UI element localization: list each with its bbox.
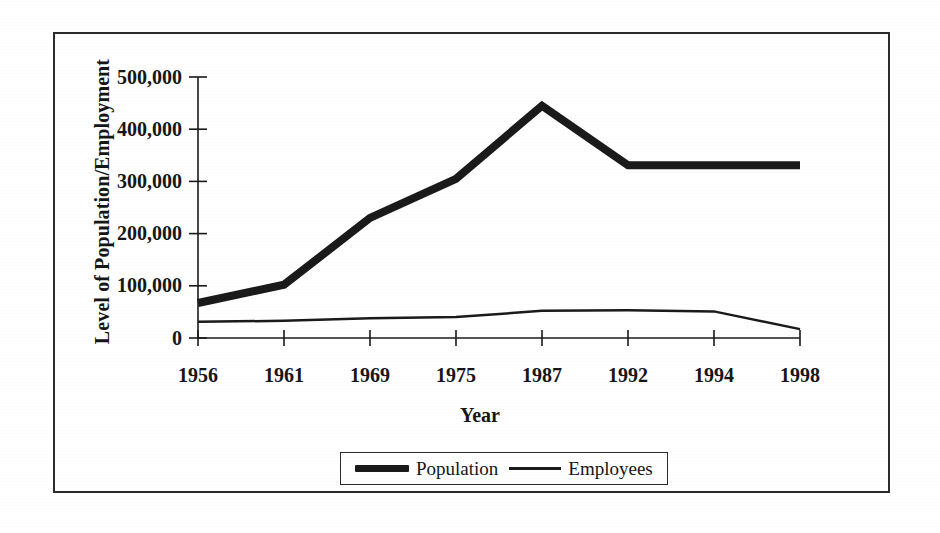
x-tick-label-1969: 1969 <box>325 364 415 387</box>
x-tick-label-1998: 1998 <box>755 364 845 387</box>
x-axis-title-text: Year <box>400 404 560 427</box>
legend-label-employees: Employees <box>568 458 652 480</box>
thick-line-swatch-icon <box>355 465 409 472</box>
legend-entry-employees: Employees <box>509 458 652 480</box>
x-tick-label-1961: 1961 <box>239 364 329 387</box>
x-tick-label-1992: 1992 <box>583 364 673 387</box>
x-tick-label-1987: 1987 <box>497 364 587 387</box>
legend-entry-population: Population <box>355 458 498 480</box>
x-tick-label-1956: 1956 <box>153 364 243 387</box>
x-tick-label-1975: 1975 <box>411 364 501 387</box>
x-tick-label-1994: 1994 <box>669 364 759 387</box>
legend-label-population: Population <box>416 458 498 480</box>
thin-line-swatch-icon <box>509 467 561 470</box>
chart-legend: Population Employees <box>340 452 668 485</box>
